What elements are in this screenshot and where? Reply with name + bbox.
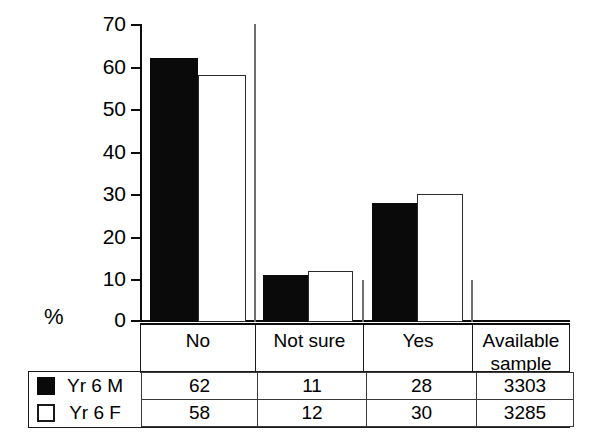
y-tick-0: 0	[131, 320, 140, 322]
cell-yr6f-no: 58	[142, 400, 258, 427]
table-row: Yr 6 M 62 11 28 3303	[29, 373, 574, 400]
series-label-yr6m: Yr 6 M	[55, 375, 141, 397]
y-tick-20: 20	[131, 237, 140, 239]
data-table: Yr 6 M 62 11 28 3303 Yr 6 F 58	[28, 371, 570, 428]
y-tick-label-40: 40	[86, 141, 126, 162]
y-tick-label-30: 30	[86, 183, 126, 204]
y-tick-label-0: 0	[86, 309, 126, 330]
y-tick-50: 50	[131, 109, 140, 111]
legend-cell-yr6m: Yr 6 M	[29, 373, 142, 400]
y-tick-30: 30	[131, 194, 140, 196]
cell-yr6m-yes: 28	[367, 373, 477, 400]
bar-yes-yr6m	[372, 203, 417, 322]
bar-notsure-yr6m	[263, 275, 308, 322]
group-separator-2	[362, 280, 364, 322]
table-row: Yr 6 F 58 12 30 3285	[29, 400, 574, 427]
cell-yr6m-sample: 3303	[477, 373, 574, 400]
bar-chart-figure: % 70 60 50 40 30 20 10 0	[0, 0, 607, 446]
series-label-yr6f: Yr 6 F	[55, 402, 141, 424]
filled-square-icon	[37, 377, 55, 395]
cell-yr6m-no: 62	[142, 373, 258, 400]
legend-cell-yr6f: Yr 6 F	[29, 400, 142, 427]
y-axis-unit-label: %	[44, 306, 64, 328]
bar-yes-yr6f	[417, 194, 463, 322]
bar-notsure-yr6f	[308, 271, 353, 322]
cell-yr6m-not-sure: 11	[258, 373, 367, 400]
y-tick-70: 70	[131, 24, 140, 26]
open-square-icon	[37, 404, 55, 422]
cell-yr6f-not-sure: 12	[258, 400, 367, 427]
y-tick-label-20: 20	[86, 226, 126, 247]
y-axis-line	[140, 24, 142, 322]
plot-area: 70 60 50 40 30 20 10 0	[140, 24, 570, 322]
cell-yr6f-yes: 30	[367, 400, 477, 427]
bar-no-yr6m	[150, 58, 198, 322]
y-tick-label-50: 50	[86, 98, 126, 119]
bar-no-yr6f	[198, 75, 246, 322]
y-tick-label-70: 70	[86, 13, 126, 34]
y-tick-label-60: 60	[86, 56, 126, 77]
y-tick-label-10: 10	[86, 268, 126, 289]
group-separator-3	[471, 280, 473, 322]
y-tick-40: 40	[131, 152, 140, 154]
y-tick-10: 10	[131, 279, 140, 281]
group-separator-1	[254, 24, 256, 322]
cell-yr6f-sample: 3285	[477, 400, 574, 427]
y-tick-60: 60	[131, 67, 140, 69]
